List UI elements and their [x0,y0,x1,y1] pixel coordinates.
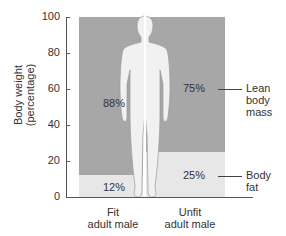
tick-label-100: 100 [36,10,60,22]
tick-label-40: 40 [36,118,60,130]
legend-line-lean [218,89,242,90]
x-axis [66,197,253,198]
category-fit-line2: adult male [78,218,148,230]
category-unfit: Unfit adult male [155,206,225,230]
tick-label-60: 60 [36,82,60,94]
label-unfit-fat: 25% [183,169,205,181]
category-unfit-line2: adult male [155,218,225,230]
legend-lean-line2: body [246,94,272,106]
y-axis [66,17,67,198]
y-axis-label: Body weight (percentage) [12,35,36,155]
tick-60 [66,89,70,90]
tick-label-80: 80 [36,46,60,58]
y-axis-label-line1: Body weight [12,35,24,155]
legend-lean-body-mass: Lean body mass [246,82,272,118]
category-fit-line1: Fit [78,206,148,218]
tick-80 [66,53,70,54]
legend-line-fat [218,176,242,177]
category-unfit-line1: Unfit [155,206,225,218]
label-fit-fat: 12% [103,181,125,193]
tick-100 [66,17,70,18]
legend-body-fat: Body fat [246,169,271,193]
tick-40 [66,125,70,126]
label-unfit-lean: 75% [183,82,205,94]
legend-fat-line1: Body [246,169,271,181]
y-axis-label-line2: (percentage) [24,35,36,155]
legend-fat-line2: fat [246,181,271,193]
category-fit: Fit adult male [78,206,148,230]
tick-label-0: 0 [36,190,60,202]
legend-lean-line3: mass [246,106,272,118]
label-fit-lean: 88% [103,97,125,109]
legend-lean-line1: Lean [246,82,272,94]
tick-label-20: 20 [36,154,60,166]
tick-20 [66,161,70,162]
